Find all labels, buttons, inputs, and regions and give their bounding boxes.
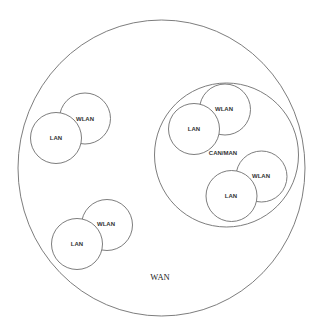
network-diagram: WLAN LAN WLAN LAN WLAN LAN CAN/MAN WLAN … (0, 0, 317, 332)
wlan-label: WLAN (252, 173, 270, 179)
wlan-label: WLAN (76, 116, 94, 122)
wlan-label: WLAN (215, 106, 233, 112)
lan-label: LAN (71, 241, 83, 247)
lan-label: LAN (225, 193, 237, 199)
wlan-label: WLAN (97, 221, 115, 227)
wan-label: WAN (150, 272, 169, 282)
lan-label: LAN (50, 135, 62, 141)
lan-label: LAN (188, 126, 200, 132)
can-man-label: CAN/MAN (209, 150, 237, 156)
